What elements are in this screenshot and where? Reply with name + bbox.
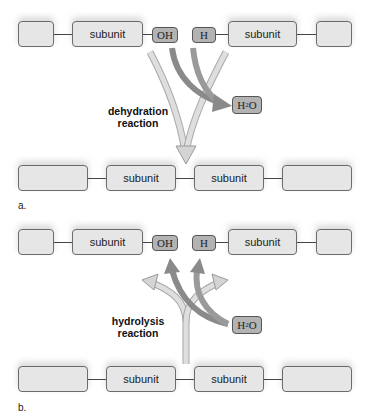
end-subunit-box: [18, 21, 54, 47]
hydrolysis-reaction-label: hydrolysis reaction: [98, 315, 178, 339]
hydroxyl-group: OH: [152, 235, 178, 251]
bond-line: [216, 34, 228, 35]
subunit-box: subunit: [194, 165, 264, 191]
subunit-box: subunit: [106, 366, 176, 392]
bond-line: [88, 379, 106, 380]
cleaved-bond-line: [176, 379, 194, 380]
bond-line: [264, 178, 282, 179]
water-molecule: H2O: [232, 96, 262, 114]
end-subunit-box: [18, 229, 54, 255]
subunit-box: subunit: [194, 366, 264, 392]
subunit-box: subunit: [72, 229, 143, 255]
reaction-label-line2: reaction: [98, 117, 178, 129]
hydroxyl-group: OH: [152, 27, 178, 43]
hydrogen-group: H: [192, 235, 216, 251]
end-subunit-box: [282, 366, 352, 392]
end-subunit-box: [18, 366, 88, 392]
bond-line: [216, 242, 228, 243]
bond-line: [88, 178, 106, 179]
bond-line: [297, 34, 316, 35]
reaction-label-line1: dehydration: [98, 105, 178, 117]
new-bond-line: [176, 178, 194, 179]
subunit-box: subunit: [72, 21, 143, 47]
subunit-box: subunit: [228, 21, 297, 47]
water-molecule: H2O: [232, 316, 262, 334]
subunit-box: subunit: [106, 165, 176, 191]
end-subunit-box: [316, 21, 352, 47]
bond-line: [297, 242, 316, 243]
bond-line: [143, 34, 152, 35]
bond-line: [54, 242, 72, 243]
water-h: H: [237, 99, 245, 111]
hydrogen-group: H: [192, 27, 216, 43]
water-o: O: [249, 319, 257, 331]
end-subunit-box: [282, 165, 352, 191]
subunit-box: subunit: [228, 229, 297, 255]
water-h: H: [237, 319, 245, 331]
bond-line: [54, 34, 72, 35]
bond-line: [143, 242, 152, 243]
dehydration-reaction-label: dehydration reaction: [98, 105, 178, 129]
reaction-label-line2: reaction: [98, 327, 178, 339]
bond-line: [264, 379, 282, 380]
reaction-arrows: [0, 0, 369, 416]
water-o: O: [249, 99, 257, 111]
panel-b-letter: b.: [18, 402, 26, 413]
panel-a-letter: a.: [18, 200, 26, 211]
reaction-label-line1: hydrolysis: [98, 315, 178, 327]
end-subunit-box: [18, 165, 88, 191]
end-subunit-box: [316, 229, 352, 255]
